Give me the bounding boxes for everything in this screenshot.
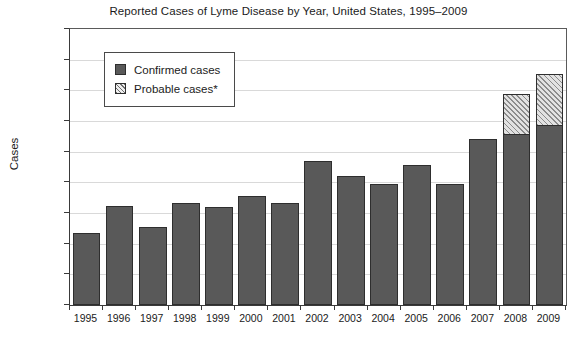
bar-segment-confirmed[interactable] (436, 184, 464, 305)
x-tick-mark (69, 305, 70, 310)
x-tick-mark (234, 305, 235, 310)
bar-segment-confirmed[interactable] (73, 233, 101, 305)
legend-item[interactable]: Confirmed cases (115, 60, 220, 79)
bar-group[interactable] (403, 165, 431, 305)
x-tick-mark (168, 305, 169, 310)
x-tick-mark (201, 305, 202, 310)
bar-group[interactable] (469, 139, 497, 305)
x-tick-mark (400, 305, 401, 310)
legend-label: Confirmed cases (134, 64, 220, 76)
x-tick-mark (267, 305, 268, 310)
bar-group[interactable] (106, 206, 134, 305)
legend: Confirmed casesProbable cases* (104, 52, 235, 107)
bar-group[interactable] (536, 73, 564, 305)
bar-group[interactable] (304, 161, 332, 305)
bar-group[interactable] (503, 93, 531, 305)
bar-segment-confirmed[interactable] (139, 227, 167, 305)
bar-segment-confirmed[interactable] (271, 203, 299, 305)
bar-segment-confirmed[interactable] (238, 196, 266, 305)
x-tick-mark (466, 305, 467, 310)
bar-segment-probable[interactable] (503, 94, 531, 135)
bar-segment-confirmed[interactable] (503, 134, 531, 305)
x-tick-mark (532, 305, 533, 310)
x-tick-mark (499, 305, 500, 310)
bar-group[interactable] (271, 203, 299, 305)
bar-segment-confirmed[interactable] (337, 176, 365, 305)
x-tick-mark (135, 305, 136, 310)
bar-segment-probable[interactable] (536, 74, 564, 126)
bar-segment-confirmed[interactable] (370, 184, 398, 305)
legend-label: Probable cases* (134, 83, 218, 95)
bar-group[interactable] (370, 184, 398, 305)
legend-swatch-confirmed-icon (115, 64, 126, 75)
bar-segment-confirmed[interactable] (469, 139, 497, 305)
bar-group[interactable] (205, 207, 233, 305)
bar-group[interactable] (73, 233, 101, 305)
x-tick-mark (565, 305, 566, 310)
bar-segment-confirmed[interactable] (536, 125, 564, 305)
bar-group[interactable] (436, 184, 464, 305)
x-tick-mark (300, 305, 301, 310)
y-axis-title: Cases (8, 119, 20, 189)
chart-title: Reported Cases of Lyme Disease by Year, … (0, 5, 577, 17)
bar-segment-confirmed[interactable] (106, 206, 134, 305)
bar-group[interactable] (139, 227, 167, 305)
bar-group[interactable] (238, 196, 266, 305)
x-tick-mark (102, 305, 103, 310)
bar-segment-confirmed[interactable] (172, 203, 200, 305)
bar-group[interactable] (172, 203, 200, 305)
legend-item[interactable]: Probable cases* (115, 79, 220, 98)
chart-figure: Reported Cases of Lyme Disease by Year, … (0, 0, 577, 339)
x-tick-mark (334, 305, 335, 310)
x-tick-mark (433, 305, 434, 310)
x-tick-label: 2009 (528, 312, 568, 324)
bar-group[interactable] (337, 176, 365, 305)
legend-swatch-probable-icon (115, 83, 126, 94)
bar-segment-confirmed[interactable] (205, 207, 233, 305)
bar-segment-confirmed[interactable] (403, 165, 431, 305)
bar-segment-confirmed[interactable] (304, 161, 332, 305)
x-tick-mark (367, 305, 368, 310)
